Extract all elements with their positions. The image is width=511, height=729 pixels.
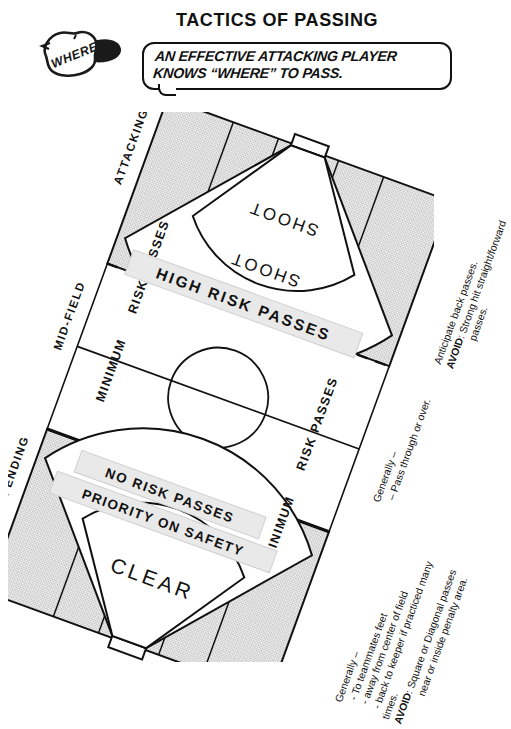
page-title: TACTICS OF PASSING	[176, 10, 378, 31]
callout-line-2-suffix: ” TO PASS.	[268, 65, 344, 81]
callout-text: AN EFFECTIVE ATTACKING PLAYER KNOWS “WHE…	[152, 48, 446, 82]
cap-with-where-label-icon: WHERE	[24, 22, 128, 100]
callout-box: AN EFFECTIVE ATTACKING PLAYER KNOWS “WHE…	[142, 42, 452, 90]
callout-emphasis: WHERE	[216, 65, 269, 81]
callout-line-2-prefix: KNOWS “	[152, 65, 218, 81]
callout-line-1: AN EFFECTIVE ATTACKING PLAYER	[154, 48, 398, 64]
pitch-diagram: SHOOT SHOOT	[8, 112, 434, 662]
callout-tail	[158, 84, 176, 96]
